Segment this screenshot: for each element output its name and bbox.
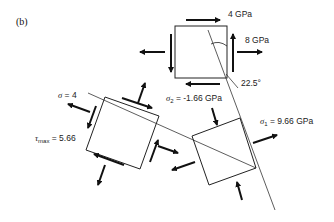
- angle-label: 22.5°: [241, 79, 261, 88]
- stress-transformation-diagram: [0, 0, 334, 222]
- tau-max-label: τmax = 5.66: [35, 134, 76, 144]
- max-shear-element: [68, 83, 178, 185]
- normal-stress-label: 8 GPa: [245, 36, 269, 45]
- sigma1-label: σ1 = 9.66 GPa: [260, 117, 313, 127]
- panel-label: (b): [16, 17, 28, 27]
- sigma2-label: σ2 = -1.66 GPa: [166, 94, 222, 104]
- diagonal-line: [88, 93, 256, 168]
- sigma-avg-label: σ = 4: [58, 91, 77, 100]
- shear-stress-label: 4 GPa: [228, 10, 252, 19]
